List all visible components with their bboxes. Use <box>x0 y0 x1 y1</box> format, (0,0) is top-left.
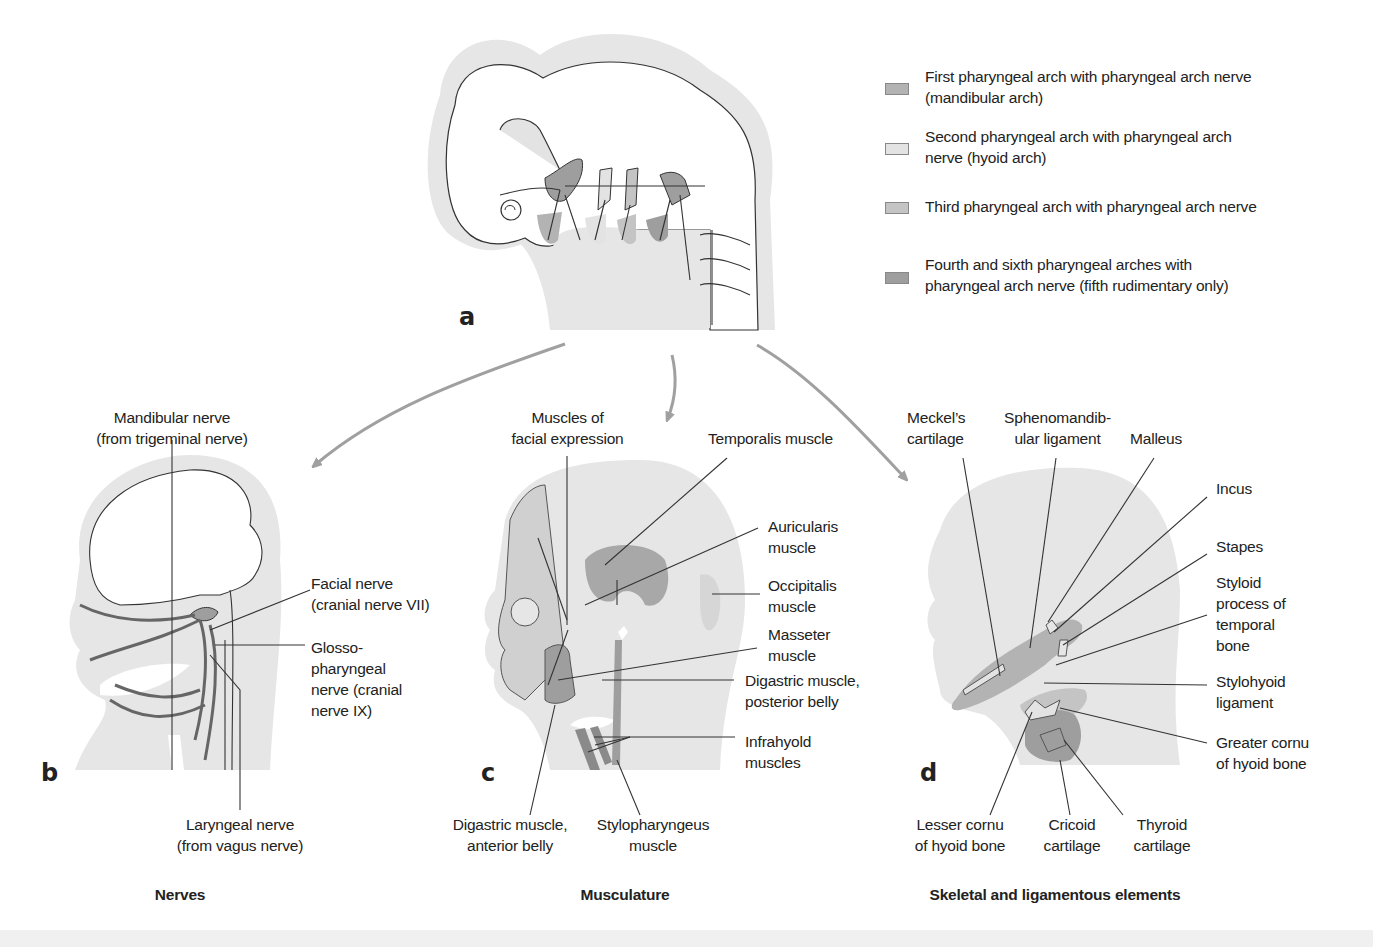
legend-swatch-fourth-sixth-arches <box>885 272 909 284</box>
pharyngeal-arch-derivatives-figure: First pharyngeal arch with pharyngeal ar… <box>0 0 1373 947</box>
legend-swatch-second-arch <box>885 143 909 155</box>
label-stylopharyngeus-muscle: Stylopharyngeus muscle <box>583 814 723 856</box>
label-infrahyoid-muscles: Infrahyold muscles <box>745 731 865 773</box>
legend-label: First pharyngeal arch with pharyngeal ar… <box>925 66 1345 108</box>
label-muscles-facial-expression: Muscles of facial expression <box>495 407 640 449</box>
label-cricoid-cartilage: Cricoid cartilage <box>1030 814 1114 856</box>
legend-label: Third pharyngeal arch with pharyngeal ar… <box>925 196 1345 217</box>
bottom-band <box>0 930 1373 947</box>
label-stylohyoid-ligament: Stylohyoid ligament <box>1216 671 1326 713</box>
caption-nerves: Nerves <box>100 886 260 904</box>
caption-musculature: Musculature <box>545 886 705 904</box>
legend-label: Fourth and sixth pharyngeal arches with … <box>925 254 1345 296</box>
panel-d-skeletal-drawing <box>928 458 1208 815</box>
caption-skeletal-ligamentous: Skeletal and ligamentous elements <box>880 886 1230 904</box>
label-facial-nerve: Facial nerve (cranial nerve VII) <box>311 573 461 615</box>
label-greater-cornu-hyoid: Greater cornu of hyoid bone <box>1216 732 1336 774</box>
label-masseter-muscle: Masseter muscle <box>768 624 878 666</box>
panel-a-embryo-drawing <box>428 34 775 330</box>
panel-letter-c: c <box>481 759 495 787</box>
panel-c-musculature-drawing <box>485 456 760 815</box>
label-thyroid-cartilage: Thyroid cartilage <box>1120 814 1204 856</box>
label-malleus: Malleus <box>1130 428 1210 449</box>
panel-letter-d: d <box>920 759 937 787</box>
label-meckels-cartilage: Meckel’s cartilage <box>907 407 997 449</box>
label-laryngeal-nerve: Laryngeal nerve (from vagus nerve) <box>160 814 320 856</box>
legend-swatch-first-arch <box>885 83 909 95</box>
label-sphenomandibular-ligament: Sphenomandib- ular ligament <box>990 407 1125 449</box>
label-lesser-cornu-hyoid: Lesser cornu of hyoid bone <box>900 814 1020 856</box>
panel-letter-b: b <box>41 759 58 787</box>
label-auricularis-muscle: Auricularis muscle <box>768 516 878 558</box>
label-mandibular-nerve: Mandibular nerve (from trigeminal nerve) <box>72 407 272 449</box>
label-incus: Incus <box>1216 478 1296 499</box>
label-styloid-process: Styloid process of temporal bone <box>1216 572 1316 656</box>
label-temporalis-muscle: Temporalis muscle <box>708 428 868 449</box>
legend-swatch-third-arch <box>885 202 909 214</box>
label-glossopharyngeal-nerve: Glosso- pharyngeal nerve (cranial nerve … <box>311 637 441 721</box>
label-stapes: Stapes <box>1216 536 1296 557</box>
panel-b-nerves-drawing <box>70 440 310 810</box>
panel-letter-a: a <box>459 303 475 331</box>
label-digastric-posterior-belly: Digastric muscle, posterior belly <box>745 670 895 712</box>
label-digastric-anterior-belly: Digastric muscle, anterior belly <box>440 814 580 856</box>
label-occipitalis-muscle: Occipitalis muscle <box>768 575 878 617</box>
legend-label: Second pharyngeal arch with pharyngeal a… <box>925 126 1345 168</box>
